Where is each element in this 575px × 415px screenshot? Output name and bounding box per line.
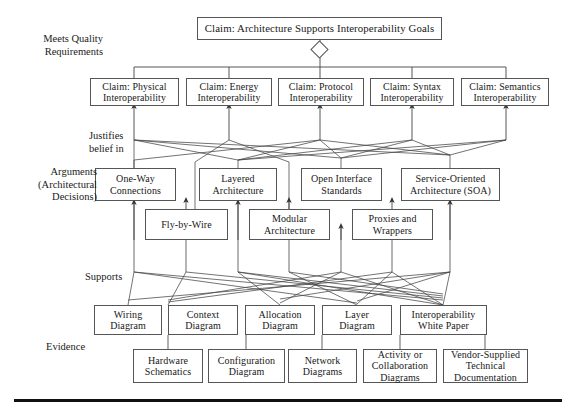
evidence-box-activity-collaboration-diagrams[interactable]: Activity or Collaboration Diagrams	[363, 349, 437, 383]
evidence-text: Context Diagram	[183, 309, 223, 331]
claim-box-physical[interactable]: Claim: Physical Interoperability	[90, 78, 179, 106]
argument-box-modular-architecture[interactable]: Modular Architecture	[249, 209, 330, 240]
evidence-box-interoperability-white-paper[interactable]: Interoperability White Paper	[400, 305, 487, 335]
top-claim-box[interactable]: Claim: Architecture Supports Interoperab…	[197, 17, 442, 40]
evidence-box-configuration-diagram[interactable]: Configuration Diagram	[208, 349, 285, 383]
claim-text: Claim: Physical Interoperability	[100, 81, 168, 103]
claim-box-semantics[interactable]: Claim: Semantics Interoperability	[461, 78, 549, 106]
evidence-box-context-diagram[interactable]: Context Diagram	[168, 305, 238, 335]
argument-box-one-way-connections[interactable]: One-Way Connections	[95, 168, 176, 201]
argument-text: One-Way Connections	[108, 173, 163, 195]
bottom-rule	[14, 399, 562, 402]
evidence-text: Vendor-Supplied Technical Documentation	[449, 349, 522, 383]
argument-text: Service-Oriented Architecture (SOA)	[408, 173, 493, 195]
label-arguments: Arguments (Architectural Decisions)	[5, 166, 97, 204]
top-claim-text: Claim: Architecture Supports Interoperab…	[203, 22, 436, 34]
evidence-text: Layer Diagram	[337, 309, 377, 331]
argument-diagram: Meets Quality Requirements Justifies bel…	[0, 0, 575, 415]
evidence-text: Wiring Diagram	[108, 309, 148, 331]
argument-text: Modular Architecture	[262, 213, 317, 235]
evidence-text: Network Diagrams	[301, 355, 345, 377]
argument-box-fly-by-wire[interactable]: Fly-by-Wire	[145, 209, 228, 240]
claim-text: Claim: Energy Interoperability	[195, 81, 262, 103]
evidence-text: Configuration Diagram	[216, 355, 277, 377]
evidence-box-network-diagrams[interactable]: Network Diagrams	[288, 349, 357, 383]
evidence-box-layer-diagram[interactable]: Layer Diagram	[322, 305, 392, 335]
claim-text: Claim: Protocol Interoperability	[287, 81, 355, 103]
argument-box-proxies-and-wrappers[interactable]: Proxies and Wrappers	[352, 209, 433, 240]
label-justifies-belief-in: Justifies belief in	[89, 130, 159, 155]
label-supports: Supports	[85, 271, 165, 284]
evidence-box-wiring-diagram[interactable]: Wiring Diagram	[94, 305, 162, 335]
claim-text: Claim: Syntax Interoperability	[378, 81, 445, 103]
label-evidence: Evidence	[46, 341, 126, 354]
claim-box-syntax[interactable]: Claim: Syntax Interoperability	[370, 78, 454, 106]
evidence-box-vendor-supplied-documentation[interactable]: Vendor-Supplied Technical Documentation	[443, 349, 528, 383]
argument-box-service-oriented-architecture[interactable]: Service-Oriented Architecture (SOA)	[401, 168, 500, 201]
claim-text: Claim: Semantics Interoperability	[467, 81, 543, 103]
argument-text: Layered Architecture	[210, 173, 265, 195]
claim-box-protocol[interactable]: Claim: Protocol Interoperability	[278, 78, 364, 106]
argument-text: Proxies and Wrappers	[366, 213, 418, 235]
evidence-box-allocation-diagram[interactable]: Allocation Diagram	[245, 305, 315, 335]
evidence-text: Hardware Schematics	[143, 355, 194, 377]
argument-box-layered-architecture[interactable]: Layered Architecture	[199, 168, 277, 201]
evidence-text: Interoperability White Paper	[410, 309, 478, 331]
argument-text: Fly-by-Wire	[159, 219, 214, 230]
evidence-text: Activity or Collaboration Diagrams	[370, 349, 430, 383]
claim-box-energy[interactable]: Claim: Energy Interoperability	[186, 78, 272, 106]
evidence-box-hardware-schematics[interactable]: Hardware Schematics	[133, 349, 203, 383]
label-meets-quality-requirements: Meets Quality Requirements	[10, 33, 103, 58]
argument-box-open-interface-standards[interactable]: Open Interface Standards	[301, 168, 382, 201]
evidence-text: Allocation Diagram	[256, 309, 303, 331]
argument-text: Open Interface Standards	[309, 173, 374, 195]
